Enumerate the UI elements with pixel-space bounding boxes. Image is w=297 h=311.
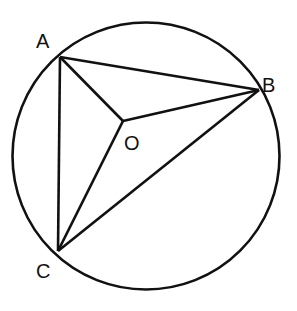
label-a: A [36,30,50,52]
segment-ab [60,57,259,90]
geometry-diagram: A B C O [0,0,297,311]
label-o: O [124,132,140,154]
segment-ca [58,57,60,251]
segment-oc [58,121,123,251]
label-b: B [262,74,275,96]
label-c: C [36,260,50,282]
circle-outline [13,23,280,290]
